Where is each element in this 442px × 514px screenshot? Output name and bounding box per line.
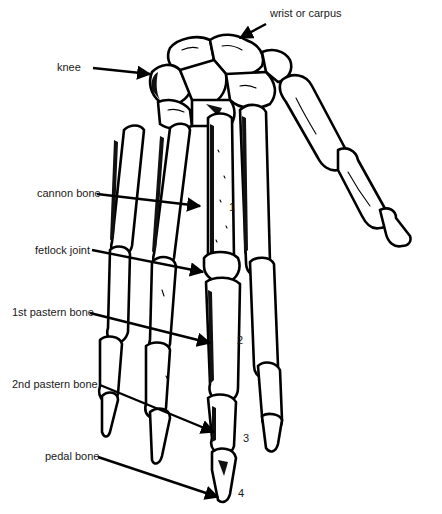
central-limb: [204, 114, 240, 503]
segment-number-4: 4: [238, 488, 244, 499]
label-cannon-bone: cannon bone: [37, 188, 101, 199]
label-pedal-bone: pedal bone: [45, 451, 99, 462]
label-2nd-pastern-bone: 2nd pastern bone: [12, 379, 98, 390]
left-digits: [99, 124, 190, 464]
skeleton-drawing: [0, 0, 442, 514]
segment-number-2: 2: [237, 335, 243, 346]
bone-diagram: wrist or carpus knee cannon bone fetlock…: [0, 0, 442, 514]
arrow-knee: [93, 68, 150, 74]
outer-digit: [280, 75, 411, 246]
arrow-wrist: [240, 24, 266, 38]
segment-number-3: 3: [243, 433, 249, 444]
right-limb: [240, 105, 282, 452]
label-fetlock-joint: fetlock joint: [35, 245, 90, 256]
label-wrist-or-carpus: wrist or carpus: [270, 8, 342, 19]
label-1st-pastern-bone: 1st pastern bone: [12, 307, 94, 318]
label-knee: knee: [57, 62, 81, 73]
segment-number-1: 1: [229, 202, 235, 213]
